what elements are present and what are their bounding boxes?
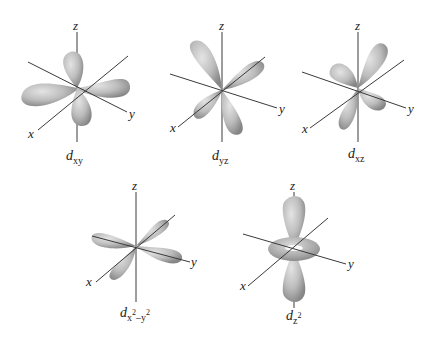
lobe: [222, 90, 243, 135]
torus-hole: [285, 245, 303, 251]
z-axis-label: z: [131, 178, 137, 193]
y-axis-label: y: [406, 101, 414, 116]
lobe: [193, 90, 222, 119]
x-axis-label: x: [85, 274, 92, 289]
lobe: [329, 64, 358, 88]
lobe: [136, 246, 182, 263]
orbital-label-dxz: dxz: [348, 146, 365, 164]
lobe: [77, 79, 130, 98]
lobe: [339, 88, 359, 130]
orbital-dxy: z y x dxy: [21, 18, 135, 166]
orbital-label-dz2: dz2: [286, 308, 301, 326]
z-axis-label: z: [218, 18, 224, 33]
x-axis-label: x: [169, 120, 176, 135]
lobe: [190, 41, 222, 90]
y-axis-label: y: [346, 256, 354, 271]
orbital-label-dyz: dyz: [212, 148, 229, 166]
x-axis: [310, 60, 404, 128]
z-axis-label: z: [289, 178, 295, 193]
x-axis-label: x: [239, 278, 246, 293]
orbital-label-dxy: dxy: [66, 148, 83, 166]
lobe: [358, 43, 388, 88]
lobe: [21, 84, 77, 107]
orbital-dz2: z y x dz2: [239, 178, 354, 326]
d-orbitals-diagram: z y x dxy z y x dyz z y x dxz: [0, 0, 439, 338]
x-axis-label: x: [301, 121, 308, 136]
orbital-dx2-y2: z y x dx2–y2: [85, 178, 197, 323]
y-axis-label: y: [277, 101, 285, 116]
z-axis-label: z: [354, 18, 360, 33]
lobe: [222, 61, 264, 90]
z-axis-label: z: [72, 18, 78, 33]
y-axis-label: y: [189, 254, 197, 269]
y-axis-label: y: [127, 106, 135, 121]
y-axis: [92, 236, 190, 262]
orbital-dxz: z y x dxz: [301, 18, 414, 164]
lobe: [63, 52, 83, 88]
orbital-dyz: z y x dyz: [169, 18, 285, 166]
x-axis-label: x: [27, 126, 34, 141]
orbital-label-dx2-y2: dx2–y2: [120, 305, 150, 323]
